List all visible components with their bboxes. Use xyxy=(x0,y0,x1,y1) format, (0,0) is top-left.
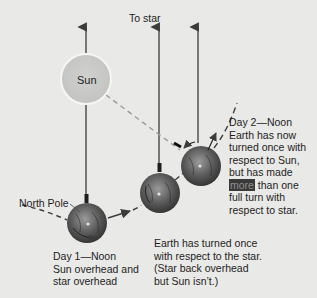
day1-caption-line: Sun overhead and xyxy=(53,263,139,276)
diagram: To star Sun North Pole Day 1—Noon Sun ov… xyxy=(0,0,317,298)
sun-label: Sun xyxy=(77,74,97,86)
day1-caption-line: Day 1—Noon xyxy=(53,250,139,263)
orbit-path-2 xyxy=(133,205,141,210)
to-star-label: To star xyxy=(129,12,161,25)
day2-caption-text: than one xyxy=(255,179,299,191)
day2-caption-line: full turn with xyxy=(229,191,306,204)
star-direction-arrows xyxy=(86,27,198,200)
earth-middle xyxy=(140,163,180,213)
middle-caption-line: Earth has turned once xyxy=(154,237,262,250)
highlight-more: more xyxy=(229,179,255,191)
day2-caption: Day 2—Noon Earth has now turned once wit… xyxy=(229,116,306,216)
orbit-path-3 xyxy=(175,173,183,180)
day1-caption-line: star overhead xyxy=(53,275,139,288)
day1-caption: Day 1—Noon Sun overhead and star overhea… xyxy=(53,250,139,288)
day2-caption-line: Day 2—Noon xyxy=(229,116,306,129)
day2-caption-line: respect to Sun, xyxy=(229,154,306,167)
day2-caption-line: Earth has now xyxy=(229,129,306,142)
middle-caption-line: but Sun isn’t.) xyxy=(154,275,262,288)
middle-caption-line: (Star back overhead xyxy=(154,262,262,275)
middle-caption: Earth has turned once with respect to th… xyxy=(154,237,262,287)
middle-caption-line: with respect to the star. xyxy=(154,250,262,263)
sun-direction-dashed-line xyxy=(106,95,180,150)
orbit-arrow-segment xyxy=(108,211,130,218)
north-pole-label: North Pole xyxy=(19,197,69,210)
earth-day1 xyxy=(67,194,107,243)
day2-caption-highlight-line: more than one xyxy=(229,179,306,192)
day2-caption-line: but has made xyxy=(229,166,306,179)
day2-caption-line: respect to star. xyxy=(229,204,306,217)
day2-caption-line: turned once with xyxy=(229,141,306,154)
